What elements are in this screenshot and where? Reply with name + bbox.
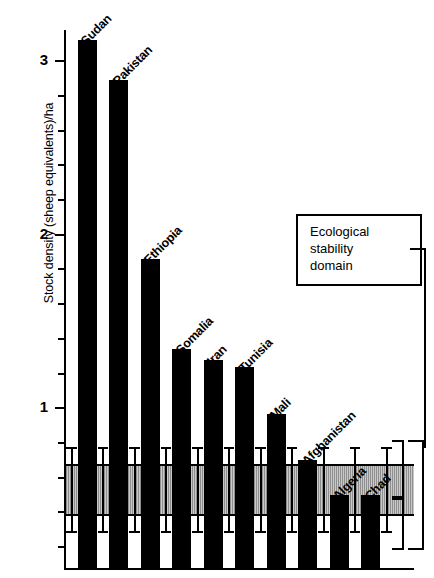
error-bar-cap-bottom [129,531,140,533]
error-bar [224,447,235,534]
error-bar-stem [260,447,262,534]
error-bar-stem [291,447,293,534]
y-tick-minor [58,546,66,548]
error-bar [255,447,266,534]
bar-sudan [78,40,97,568]
error-bar-cap-bottom [66,531,77,533]
bar-label-tunisia: Tunisia [236,335,275,374]
error-bar [66,447,77,534]
bar-tunisia [235,367,254,568]
error-bar-cap-bottom [287,531,298,533]
y-tick-minor [58,130,66,132]
x-axis-line [64,568,414,570]
y-tick-major [55,234,66,236]
error-bar-stem [71,447,73,534]
y-tick-minor [58,442,66,444]
domain-bracket-inner-upper [392,440,404,498]
error-bar-stem [228,447,230,534]
bar-pakistan [109,80,128,568]
y-axis-label: Stock density (sheep equivalents)/ha [42,58,56,348]
bar-ethiopia [141,259,160,568]
y-tick-minor [58,511,66,513]
error-bar-cap-bottom [318,531,329,533]
y-tick-minor [58,373,66,375]
y-tick-minor [58,477,66,479]
error-bar [161,447,172,534]
error-bar [287,447,298,534]
y-tick-minor [58,199,66,201]
bar-somalia [172,349,191,568]
error-bar-cap-bottom [192,531,203,533]
error-bar-stem [197,447,199,534]
y-tick-label: 2 [20,225,48,242]
bar-chad [361,495,380,568]
error-bar-stem [323,447,325,534]
legend-leader-vertical [424,248,426,448]
y-tick-minor [58,338,66,340]
error-bar [318,447,329,534]
legend-box: Ecological stability domain [296,214,422,286]
domain-bracket-outer [408,440,424,550]
bar-label-ethiopia: Ethiopia [141,223,185,267]
error-bar [129,447,140,534]
error-bar-cap-bottom [255,531,266,533]
error-bar-cap-bottom [161,531,172,533]
error-bar-stem [354,447,356,534]
y-tick-minor [58,164,66,166]
y-tick-label: 3 [20,51,48,68]
error-bar-stem [134,447,136,534]
error-bar [98,447,109,534]
y-tick-major [55,407,66,409]
y-tick-minor [58,95,66,97]
bar-label-pakistan: Pakistan [110,43,155,88]
y-tick-major [55,60,66,62]
legend-line-1: Ecological [310,223,420,240]
error-bar-stem [102,447,104,534]
domain-bracket-inner-lower [392,498,404,550]
error-bar-cap-bottom [350,531,361,533]
y-tick-minor [58,303,66,305]
y-tick-label: 1 [20,398,48,415]
error-bar-stem [165,447,167,534]
y-tick-minor [58,268,66,270]
bar-afghanistan [298,460,317,568]
bar-algeria [330,495,349,568]
error-bar-stem [386,447,388,534]
bar-iran [204,360,223,568]
error-bar [192,447,203,534]
error-bar-cap-bottom [381,531,392,533]
plot-area: SudanPakistanEthiopiaSomaliaIranTunisiaM… [66,30,414,568]
legend-line-2: stability [310,240,420,257]
bar-mali [267,414,286,568]
chart-figure: Stock density (sheep equivalents)/ha 321… [0,0,434,578]
error-bar-cap-bottom [224,531,235,533]
error-bar-cap-bottom [98,531,109,533]
legend-line-3: domain [310,257,420,274]
